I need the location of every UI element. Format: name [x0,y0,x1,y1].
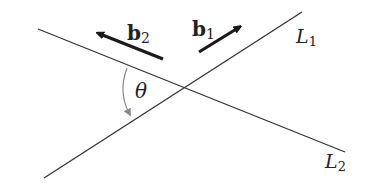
label-l1: L1 [295,25,317,49]
line-l1 [44,12,302,178]
label-l2: L2 [324,150,346,174]
diagram-canvas: b2 b1 L1 L2 θ [0,0,370,183]
line-l2 [38,29,345,152]
label-b1: b1 [192,17,215,42]
label-b2: b2 [127,21,150,46]
label-theta: θ [135,79,147,103]
angle-arc [123,68,129,113]
